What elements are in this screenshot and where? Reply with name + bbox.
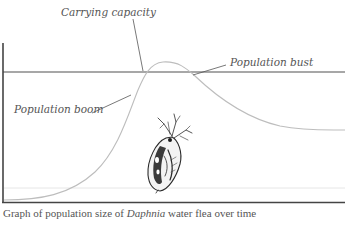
caption-suffix: water flea over time [165,207,256,219]
caption-species: Daphnia [127,207,166,219]
population-bust-leader [193,65,226,75]
population-graph: Carrying capacity Population bust Popula… [0,0,356,228]
carrying-capacity-leader [133,19,143,71]
population-boom-label: Population boom [13,103,103,115]
population-graph-figure: Carrying capacity Population bust Popula… [0,0,356,228]
carrying-capacity-label: Carrying capacity [61,6,157,18]
daphnia-illustration [148,114,192,193]
population-curve [4,62,345,200]
caption-prefix: Graph of population size of [3,207,127,219]
population-bust-label: Population bust [229,56,314,68]
figure-caption: Graph of population size of Daphnia wate… [3,207,256,219]
